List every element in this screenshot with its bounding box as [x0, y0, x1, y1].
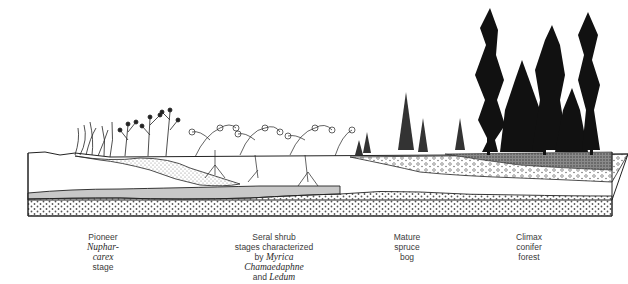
stage-label-text: by — [255, 252, 266, 262]
species-name: Nuphar- — [78, 242, 128, 252]
stage-label-line: spruce — [382, 242, 432, 252]
stage-label-mature-spruce-bog: Mature spruce bog — [382, 232, 432, 262]
pioneer-shrubs — [118, 108, 180, 156]
pioneer-sedges — [75, 122, 113, 157]
stage-label-pioneer: Pioneer Nuphar- carex stage — [78, 232, 128, 272]
young-spruces — [355, 92, 465, 155]
stage-label-line: bog — [382, 252, 432, 262]
stage-label-seral-shrub: Seral shrub stages characterized by Myri… — [224, 232, 324, 282]
stage-label-climax-forest: Climax conifer forest — [504, 232, 554, 262]
stage-label-text: and — [253, 272, 270, 282]
species-name: Myrica — [266, 252, 293, 262]
stage-label-line: forest — [504, 252, 554, 262]
species-name: carex — [78, 252, 128, 262]
stage-label-line: Pioneer — [78, 232, 128, 242]
stage-label-line: Seral shrub — [224, 232, 324, 242]
stage-label-line: Climax — [504, 232, 554, 242]
stage-label-line: Mature — [382, 232, 432, 242]
soil-profile — [28, 152, 628, 216]
species-name: Chamaedaphne — [224, 262, 324, 272]
climax-conifers — [475, 8, 600, 155]
stage-label-line: stages characterized — [224, 242, 324, 252]
stage-label-line: stage — [78, 262, 128, 272]
species-name: Ledum — [269, 272, 295, 282]
stage-label-line: conifer — [504, 242, 554, 252]
